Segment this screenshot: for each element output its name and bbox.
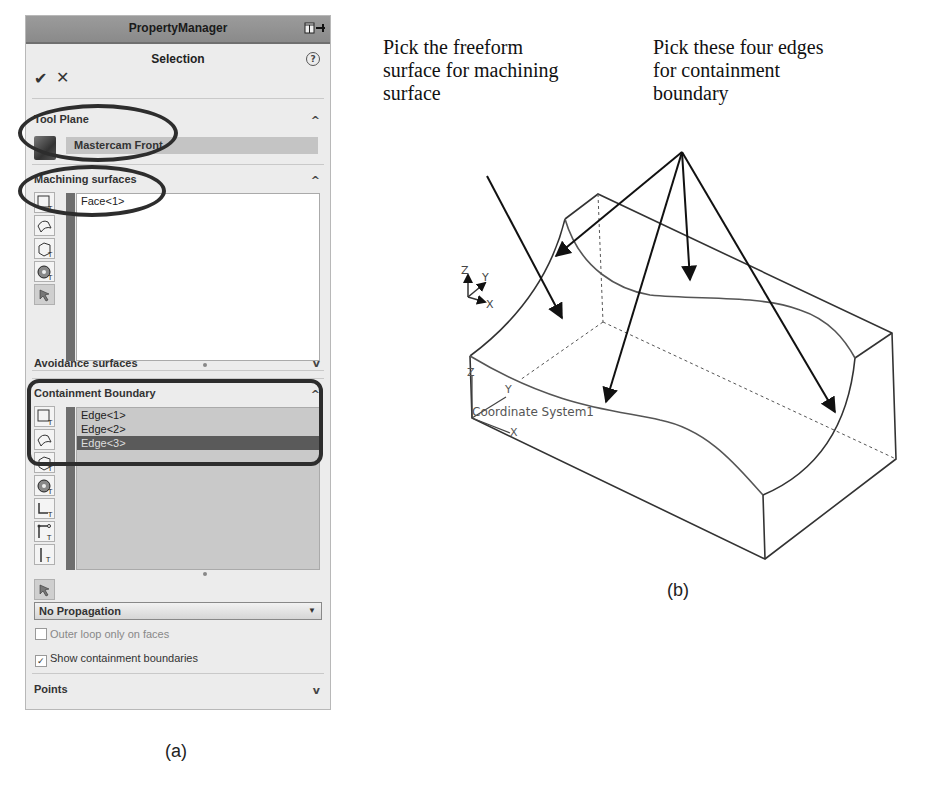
- cs-x-label: X: [510, 426, 518, 439]
- cs-z-label: Z: [467, 366, 475, 379]
- part-solid-wireframe: [470, 194, 896, 559]
- triad-y-label: Y: [481, 271, 489, 284]
- coordinate-system-label: Coordinate System1: [472, 405, 594, 419]
- triad-z-label: Z: [461, 264, 469, 277]
- arrow-to-machining-surface: [487, 176, 562, 318]
- caption-b: (b): [667, 580, 689, 601]
- arrow-to-edge-left: [556, 152, 682, 256]
- arrow-to-edge-front: [606, 152, 682, 402]
- part-model-viewport: Z Y X Z Y X Coordinate System1: [0, 0, 926, 786]
- cs-y-label: Y: [504, 383, 512, 396]
- arrow-to-edge-back: [682, 152, 690, 280]
- arrow-to-edge-right: [682, 152, 835, 412]
- triad-x-label: X: [486, 298, 494, 311]
